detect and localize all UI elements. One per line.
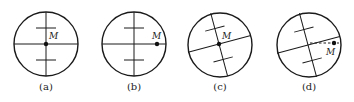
- point-m-dot: [217, 42, 221, 46]
- panel-c: [180, 5, 260, 85]
- point-m-dot: [44, 42, 48, 46]
- point-m-label: M: [325, 47, 336, 57]
- crosshair-diagram-figure: M (a) M (b) M (c) M (d): [0, 0, 354, 102]
- panel-d: [269, 5, 349, 86]
- caption-c: (c): [213, 81, 227, 92]
- caption-b: (b): [127, 81, 141, 92]
- point-m-dot: [155, 42, 159, 46]
- panel-a: [14, 12, 78, 76]
- point-m-label: M: [48, 31, 59, 41]
- point-m-dot: [332, 41, 336, 45]
- panel-b: [102, 12, 166, 76]
- caption-d: (d): [302, 81, 316, 92]
- point-m-label: M: [151, 31, 162, 41]
- point-m-label: M: [221, 31, 232, 41]
- caption-a: (a): [39, 81, 53, 92]
